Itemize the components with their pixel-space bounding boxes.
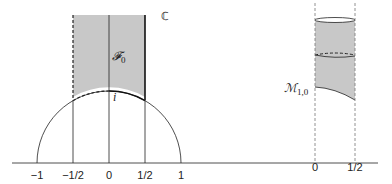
moduli-label: ℳ1,0 [284, 81, 309, 97]
tick-label: −1 [31, 169, 44, 181]
moduli-label-sub: 1,0 [297, 87, 309, 97]
point-i-label: i [113, 90, 116, 104]
tick-label: 1 [178, 169, 184, 181]
tick-label: −1/2 [62, 169, 84, 181]
complex-plane-label: ℂ [161, 10, 169, 22]
region-label-sub: 0 [121, 55, 126, 65]
tick-label: 0 [106, 169, 112, 181]
top-ellipse [315, 18, 355, 23]
tick-label: 0 [312, 161, 318, 173]
tick-label: 1/2 [347, 161, 362, 173]
tick-label: 1/2 [137, 169, 152, 181]
fundamental-domain-diagram: −1 −1/2 0 1/2 1 𝓕0 i ℂ 0 1/2 ℳ1,0 [0, 0, 392, 184]
moduli-region [315, 20, 355, 100]
